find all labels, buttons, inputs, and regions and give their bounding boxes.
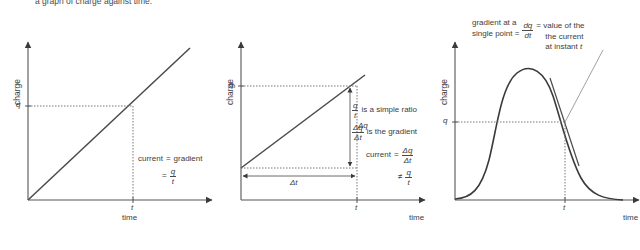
panel3-line-4: the current — [545, 32, 584, 43]
panel2-current-label: current — [366, 150, 391, 161]
panel2-data-line — [241, 75, 365, 168]
panel3-curve — [455, 69, 623, 200]
panel1-gradient-label: gradient — [174, 154, 203, 165]
panel1-equals-1: = — [166, 154, 171, 165]
panel1-equals-2: = — [162, 171, 167, 182]
panel-curve-tangent: charge q t time gradient at a single poi… — [427, 0, 640, 250]
panel2-simple-ratio-text: is a simple ratio — [361, 105, 417, 116]
panel2-equals-1: = — [394, 150, 399, 161]
panel1-x-axis-label: time — [122, 213, 137, 222]
panel3-y-axis-label: charge — [439, 79, 449, 105]
panel1-fraction-q-over-t: q t — [170, 167, 176, 186]
panel2-current-denominator: Δt — [402, 156, 414, 165]
panel3-line-1: gradient at a — [472, 18, 519, 29]
panel1-annotation: current = gradient = q t — [138, 154, 203, 186]
panel3-leader-line — [565, 50, 603, 122]
figure-canvas: a graph of charge against time. charge q — [0, 0, 640, 250]
panel2-x-axis-label: time — [409, 213, 424, 222]
panel2-x-tick-label: t — [355, 203, 357, 212]
panel2-ratio-denominator: t — [352, 111, 358, 120]
panel1-plot — [0, 0, 213, 250]
panel2-ratio-numerator: q — [352, 101, 358, 111]
panel3-line-3: = value of the — [536, 21, 584, 32]
panel2-current-numerator: Δq — [402, 146, 414, 156]
panel3-line-5-variable: t — [580, 42, 582, 51]
panel2-current-fraction: Δq Δt — [402, 146, 414, 165]
panel2-gradient-text: is the gradient — [367, 127, 417, 138]
panel2-notequal-denominator: t — [405, 178, 411, 187]
panel3-x-tick-label: t — [563, 203, 565, 212]
panel2-gradient-denominator: Δt — [352, 133, 364, 142]
panel-straight-line-offset: charge q t time Δq Δt q t is a simple ra… — [213, 0, 426, 250]
panel1-fraction-denominator: t — [170, 177, 176, 186]
panel-straight-line-through-origin: charge q t time current = gradient = q t — [0, 0, 213, 250]
panel3-derivative-fraction: dq dt — [522, 21, 533, 40]
panel1-x-tick-label: t — [131, 203, 133, 212]
panel2-notequal-fraction: q t — [405, 168, 411, 187]
panel1-y-tick-label: q — [16, 100, 20, 109]
panel2-y-tick-label: q — [229, 80, 233, 89]
panel2-not-equals: ≠ — [398, 172, 402, 183]
panel2-gradient-fraction: Δq Δt — [352, 123, 364, 142]
panel2-annotation: q t is a simple ratio Δq Δt is the gradi… — [352, 101, 417, 187]
panel3-x-axis-label: time — [623, 213, 638, 222]
panel3-derivative-denominator: dt — [522, 31, 533, 40]
panel3-line-5-text: at instant — [545, 42, 577, 51]
panel3-derivative-numerator: dq — [522, 21, 533, 31]
panel1-current-label: current — [138, 154, 163, 165]
panel3-line-2: single point = — [472, 29, 519, 40]
panel2-notequal-numerator: q — [405, 168, 411, 178]
panel3-y-tick-label: q — [443, 116, 447, 125]
panel3-annotation: gradient at a single point = dq dt = val… — [472, 18, 585, 53]
panel2-delta-t-label: Δt — [290, 178, 298, 187]
panel2-gradient-numerator: Δq — [352, 123, 364, 133]
panel2-ratio-q-over-t: q t — [352, 101, 358, 120]
panel1-fraction-numerator: q — [170, 167, 176, 177]
